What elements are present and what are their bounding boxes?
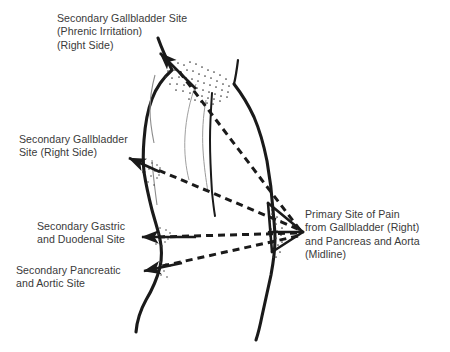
ribcage-line: [185, 84, 196, 180]
label-line: and Aortic Site: [16, 277, 85, 289]
label-line: Primary Site of Pain: [305, 208, 400, 220]
convergence-triangle-edge: [268, 203, 272, 252]
label-secondary-gastric-duodenal: Secondary Gastric and Duodenal Site: [37, 220, 125, 247]
label-line: Secondary Gallbladder: [19, 133, 128, 145]
label-primary-site-of-pain: Primary Site of Pain from Gallbladder (R…: [305, 208, 420, 262]
flank-inner-line: [152, 160, 157, 205]
label-secondary-gallbladder-phrenic: Secondary Gallbladder Site (Phrenic Irri…: [57, 12, 187, 52]
arm-crease-line: [203, 100, 208, 192]
label-secondary-gallbladder-right: Secondary Gallbladder Site (Right Side): [19, 133, 128, 160]
label-line: Secondary Gallbladder Site: [57, 12, 187, 24]
scapula-line: [150, 75, 155, 143]
neck-contour: [234, 60, 238, 84]
convergence-line-lower: [272, 232, 303, 252]
label-line: from Gallbladder (Right): [305, 221, 419, 233]
label-secondary-pancreatic-aortic: Secondary Pancreatic and Aortic Site: [16, 264, 121, 291]
back-contour-upper: [143, 38, 172, 172]
back-contour-lower: [136, 172, 162, 332]
label-line: (Phrenic Irritation): [57, 25, 142, 37]
label-line: and Pancreas and Aorta: [305, 235, 420, 247]
referred-pain-diagram: Secondary Gallbladder Site (Phrenic Irri…: [0, 0, 450, 352]
label-line: and Duodenal Site: [37, 233, 125, 245]
diagram-canvas: [0, 0, 450, 352]
pancreatic-arrow: [144, 263, 182, 271]
label-line: Site (Right Side): [19, 146, 97, 158]
label-line: Secondary Pancreatic: [16, 264, 121, 276]
phrenic-referral-line: [178, 70, 300, 230]
abdomen-contour: [256, 210, 275, 340]
label-line: (Midline): [305, 248, 346, 260]
phrenic-arrow: [160, 53, 196, 89]
label-line: Secondary Gastric: [37, 220, 125, 232]
chest-contour: [234, 84, 273, 210]
label-line: (Right Side): [57, 39, 114, 51]
